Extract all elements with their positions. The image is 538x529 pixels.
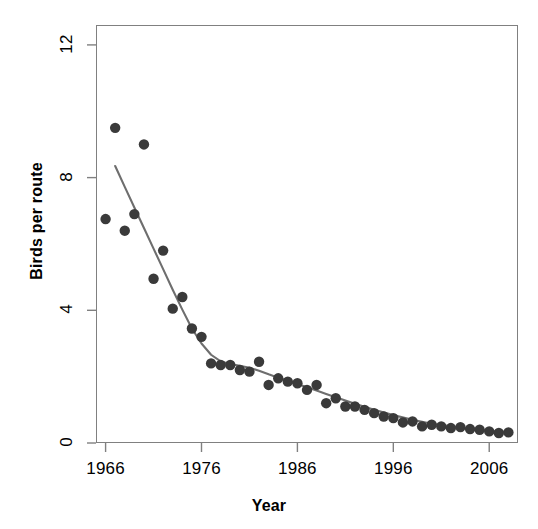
plot-canvas (0, 0, 538, 529)
chart-figure: 04812 19661976198619962006 Birds per rou… (0, 0, 538, 529)
x-tick-label: 1976 (167, 459, 237, 479)
x-tick-label: 1986 (262, 459, 332, 479)
x-tick-label: 2006 (454, 459, 524, 479)
y-tick-label: 4 (57, 294, 77, 324)
fitted-trend-line (115, 166, 508, 432)
y-tick-label: 12 (57, 29, 77, 59)
y-axis-ticks (87, 45, 96, 443)
x-axis-ticks (106, 443, 490, 452)
y-tick-label: 0 (57, 427, 77, 457)
y-tick-label: 8 (57, 162, 77, 192)
x-tick-label: 1966 (71, 459, 141, 479)
x-axis-title: Year (0, 497, 538, 515)
y-axis-title: Birds per route (28, 151, 46, 291)
x-tick-label: 1996 (358, 459, 428, 479)
data-points (100, 123, 513, 439)
